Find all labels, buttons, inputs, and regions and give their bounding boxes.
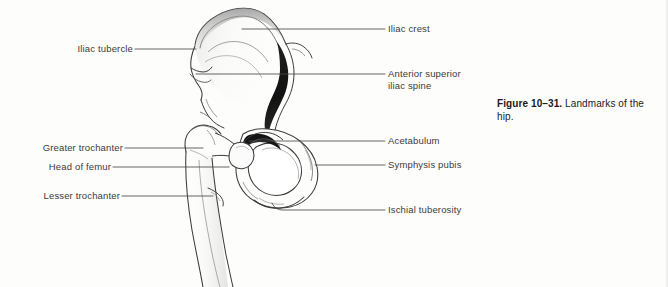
greater-trochanter-top [190,126,218,134]
posterior-spine-detail [292,49,305,56]
trochanteric-fossa [207,130,215,145]
label-anterior-superior-iliac-spine: Anterior superior iliac spine [388,68,461,91]
femoral-neck-superior [215,133,234,144]
femur-shaft-fill [188,156,228,287]
figure-number: Figure 10–31. [497,98,562,109]
label-asis-line-1: Anterior superior [388,68,461,80]
label-asis-line-2: iliac spine [388,80,461,92]
label-ischial-tuberosity: Ischial tuberosity [388,204,461,216]
label-greater-trochanter: Greater trochanter [0,142,123,154]
label-iliac-tubercle: Iliac tubercle [0,43,133,55]
label-iliac-crest: Iliac crest [388,23,430,35]
figure-container: Iliac tubercle Greater trochanter Head o… [0,0,668,287]
label-acetabulum: Acetabulum [388,135,440,147]
label-symphysis-pubis: Symphysis pubis [388,159,462,171]
figure-caption: Figure 10–31. Landmarks of the hip. [497,98,657,123]
label-head-of-femur: Head of femur [0,161,111,173]
femur-group [185,125,254,287]
label-lesser-trochanter: Lesser trochanter [0,190,120,202]
